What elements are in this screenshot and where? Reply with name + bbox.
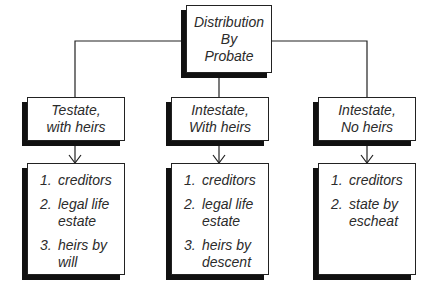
- header-label-line: Testate,: [51, 102, 100, 119]
- item-text: heirs by descent: [202, 237, 251, 271]
- item-text: legal life estate: [202, 196, 253, 230]
- root-label-line: By: [221, 31, 237, 48]
- connector-root-right: [271, 41, 367, 97]
- item-number: 3.: [40, 237, 58, 271]
- item-number: 2.: [40, 196, 58, 230]
- branch-header-intestate-no-heirs: Intestate, No heirs: [318, 97, 416, 141]
- list-item: 1. creditors: [184, 172, 268, 189]
- list-item: 2. legal life estate: [40, 196, 124, 230]
- list-item: 1. creditors: [331, 172, 415, 189]
- distribution-list-intestate-with-heirs: 1. creditors 2. legal life estate 3. hei…: [171, 163, 269, 275]
- distribution-list-intestate-no-heirs: 1. creditors 2. state by escheat: [318, 163, 416, 275]
- item-number: 2.: [184, 196, 202, 230]
- list-item: 3. heirs by descent: [184, 237, 268, 271]
- item-text: creditors: [58, 172, 112, 189]
- header-label-line: Intestate,: [191, 102, 249, 119]
- item-text: creditors: [349, 172, 403, 189]
- root-label-line: Distribution: [194, 14, 264, 31]
- list-item: 2. legal life estate: [184, 196, 268, 230]
- item-number: 1.: [331, 172, 349, 189]
- item-text: heirs by will: [58, 237, 107, 271]
- item-text: creditors: [202, 172, 256, 189]
- root-label-line: Probate: [204, 48, 253, 65]
- connector-root-left: [75, 41, 186, 97]
- list-item: 2. state by escheat: [331, 196, 415, 230]
- header-label-line: Intestate,: [338, 102, 396, 119]
- item-text: state by escheat: [349, 196, 398, 230]
- list-item: 3. heirs by will: [40, 237, 124, 271]
- header-label-line: With heirs: [189, 119, 251, 136]
- root-node: Distribution By Probate: [186, 5, 272, 73]
- item-text: legal life estate: [58, 196, 109, 230]
- header-label-line: No heirs: [341, 119, 393, 136]
- item-number: 1.: [40, 172, 58, 189]
- item-number: 1.: [184, 172, 202, 189]
- header-label-line: with heirs: [46, 119, 105, 136]
- branch-header-intestate-with-heirs: Intestate, With heirs: [171, 97, 269, 141]
- branch-header-testate-with-heirs: Testate, with heirs: [27, 97, 125, 141]
- list-item: 1. creditors: [40, 172, 124, 189]
- item-number: 3.: [184, 237, 202, 271]
- item-number: 2.: [331, 196, 349, 230]
- distribution-list-testate-with-heirs: 1. creditors 2. legal life estate 3. hei…: [27, 163, 125, 275]
